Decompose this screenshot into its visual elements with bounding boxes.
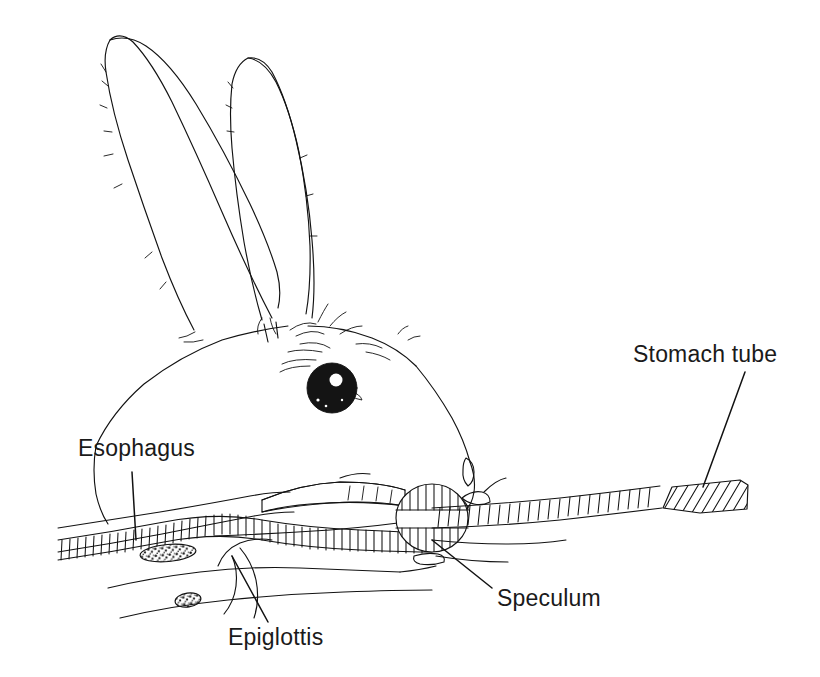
trachea [58, 514, 432, 560]
label-epiglottis-text: Epiglottis [228, 624, 323, 650]
soft-palate [262, 474, 405, 513]
label-speculum: Speculum [432, 540, 601, 611]
label-esophagus-text: Esophagus [78, 435, 195, 461]
leader-line-speculum [432, 540, 492, 588]
ear-left [100, 36, 280, 342]
anatomical-illustration: Esophagus Stomach tube Speculum Epiglott… [0, 0, 820, 677]
label-stomach-tube: Stomach tube [633, 341, 777, 487]
label-stomach-tube-text: Stomach tube [633, 341, 777, 367]
label-speculum-text: Speculum [497, 585, 601, 611]
leader-line-stomach-tube [703, 372, 745, 487]
label-epiglottis: Epiglottis [228, 556, 323, 650]
ear-right [226, 58, 317, 342]
leader-line-epiglottis [232, 556, 268, 622]
stomach-tube-end [660, 472, 776, 516]
eye [307, 363, 362, 413]
figure-root: Esophagus Stomach tube Speculum Epiglott… [0, 0, 820, 677]
